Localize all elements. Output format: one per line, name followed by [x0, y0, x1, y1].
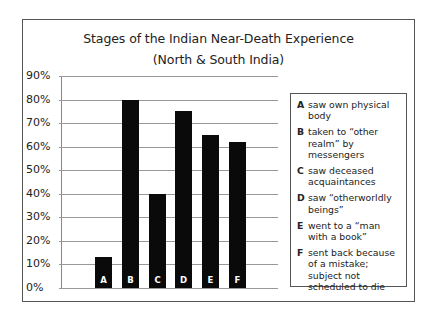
y-tick-label: 0%	[26, 281, 58, 294]
bar-d: D	[175, 111, 192, 288]
bar-e: E	[202, 135, 219, 288]
gridline	[59, 76, 278, 77]
legend-key: A	[297, 99, 308, 122]
legend-key: D	[297, 192, 308, 215]
y-tick-label: 30%	[26, 210, 58, 223]
legend-text: saw own physical body	[308, 99, 402, 122]
bar-b: B	[122, 100, 139, 288]
y-tick-label: 10%	[26, 257, 58, 270]
bar-f: F	[229, 142, 246, 288]
y-tick-label: 40%	[26, 187, 58, 200]
legend-text: sent back because of a mistake; subject …	[308, 247, 402, 293]
gridline	[59, 288, 278, 289]
y-tick-label: 50%	[26, 163, 58, 176]
legend-item: Csaw deceased acquaintances	[297, 165, 402, 188]
legend-item: Fsent back because of a mistake; subject…	[297, 247, 402, 293]
gridline	[59, 123, 278, 124]
y-axis-line	[61, 76, 62, 288]
legend-text: went to a “man with a book”	[308, 220, 402, 243]
legend-text: saw “otherworldly beings”	[308, 192, 402, 215]
bar-c: C	[149, 194, 166, 288]
legend-item: Dsaw “otherworldly beings”	[297, 192, 402, 215]
legend-key: F	[297, 247, 308, 293]
y-tick-label: 90%	[26, 69, 58, 82]
legend-key: E	[297, 220, 308, 243]
legend-text: saw deceased acquaintances	[308, 165, 402, 188]
bar-label: C	[149, 275, 166, 285]
legend-item: Btaken to “other realm” by messengers	[297, 126, 402, 160]
bar-label: E	[202, 275, 219, 285]
legend-text: taken to “other realm” by messengers	[308, 126, 402, 160]
bar-a: A	[95, 257, 112, 288]
bar-label: F	[229, 275, 246, 285]
y-tick-label: 80%	[26, 93, 58, 106]
legend: Asaw own physical bodyBtaken to “other r…	[290, 93, 407, 287]
y-tick-label: 60%	[26, 140, 58, 153]
chart-subtitle: (North & South India)	[22, 52, 415, 67]
gridline	[59, 100, 278, 101]
legend-key: C	[297, 165, 308, 188]
chart-title: Stages of the Indian Near-Death Experien…	[22, 31, 415, 46]
bar-label: D	[175, 275, 192, 285]
bar-label: A	[95, 275, 112, 285]
bar-label: B	[122, 275, 139, 285]
y-tick-label: 20%	[26, 234, 58, 247]
y-tick-label: 70%	[26, 116, 58, 129]
legend-key: B	[297, 126, 308, 160]
legend-item: Asaw own physical body	[297, 99, 402, 122]
legend-item: Ewent to a “man with a book”	[297, 220, 402, 243]
